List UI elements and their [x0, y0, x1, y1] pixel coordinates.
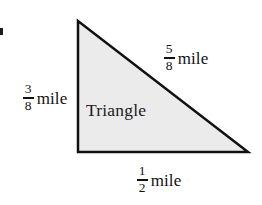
triangle-figure: 5 8 mile 3 8 mile 1 2 mile Triangle [0, 0, 262, 205]
left-side-unit-label: mile [37, 90, 68, 107]
left-edge-artifact [0, 28, 3, 35]
fraction-three-eighths: 3 8 [23, 82, 34, 114]
fraction-numerator: 5 [165, 42, 174, 56]
left-side-length-label: 3 8 mile [12, 80, 78, 116]
fraction-denominator: 2 [138, 181, 147, 195]
hypotenuse-unit-label: mile [178, 50, 209, 67]
fraction-denominator: 8 [165, 59, 174, 73]
base-length-label: 1 2 mile [124, 162, 194, 198]
fraction-five-eighths: 5 8 [164, 42, 175, 74]
fraction-denominator: 8 [24, 99, 33, 113]
fraction-numerator: 3 [24, 82, 33, 96]
hypotenuse-length-label: 5 8 mile [152, 40, 220, 76]
fraction-one-half: 1 2 [137, 164, 148, 196]
fraction-numerator: 1 [138, 164, 147, 178]
base-unit-label: mile [151, 172, 182, 189]
shape-interior-label: Triangle [86, 102, 146, 120]
